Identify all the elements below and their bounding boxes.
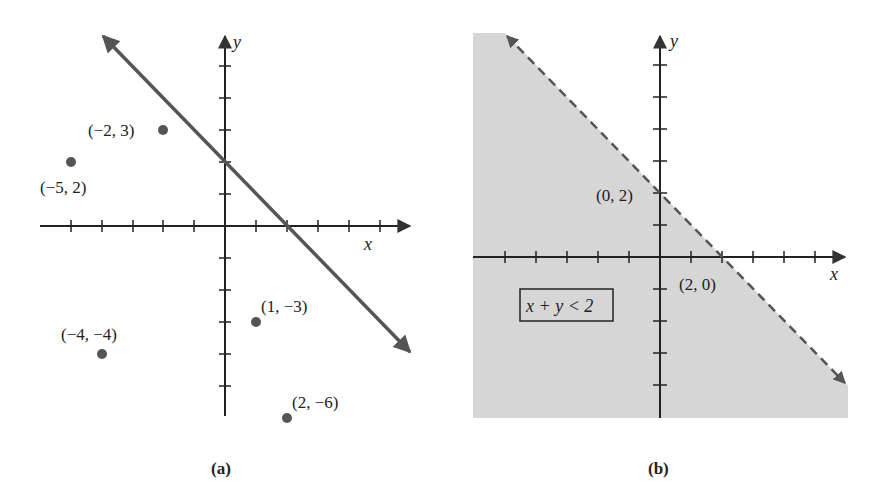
y-axis-label: y: [231, 32, 241, 52]
point-2-neg6: [282, 413, 292, 423]
intercept-label: (2, 0): [679, 275, 716, 294]
panel-b: y x (0, 2) (2, 0) x + y < 2 (b): [473, 31, 848, 478]
caption-a: (a): [211, 459, 231, 478]
point-label: (1, −3): [261, 297, 307, 316]
point-neg4-neg4: [97, 349, 107, 359]
figure: y x (−2, 3) (−5, 2) (1, −3) (−4, −4) (2,…: [0, 0, 876, 492]
boundary-line: [103, 36, 410, 352]
panel-a: y x (−2, 3) (−5, 2) (1, −3) (−4, −4) (2,…: [40, 32, 410, 478]
x-axis-label: x: [829, 264, 838, 284]
point-label: (−4, −4): [61, 325, 117, 344]
x-axis-label: x: [363, 234, 372, 254]
point-label: (−2, 3): [88, 121, 134, 140]
point-label: (−5, 2): [40, 178, 86, 197]
point-neg2-3: [158, 125, 168, 135]
y-axis-label: y: [668, 31, 678, 51]
intercept-label: (0, 2): [596, 186, 633, 205]
point-label: (2, −6): [292, 393, 338, 412]
point-neg5-2: [66, 157, 76, 167]
inequality-label: x + y < 2: [525, 296, 593, 316]
caption-b: (b): [648, 459, 669, 478]
point-1-neg3: [251, 317, 261, 327]
